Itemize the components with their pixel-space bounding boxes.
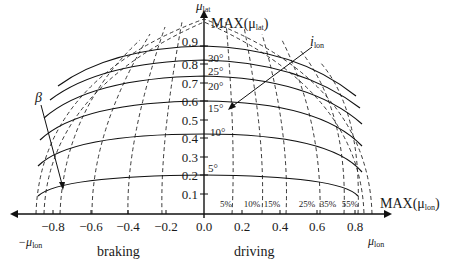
x-tick: −0.8 xyxy=(41,219,65,234)
y-tick: 0.2 xyxy=(182,168,198,183)
angle-label: 10° xyxy=(210,126,225,138)
x-tick: 0.0 xyxy=(196,219,212,234)
y-max-label: MAX(μlat) xyxy=(211,16,269,32)
slip-label: 55% xyxy=(342,199,359,209)
y-tick: 0.8 xyxy=(182,57,198,72)
slip-label: 15% xyxy=(264,199,281,209)
x-axis-label: μlon xyxy=(367,234,384,249)
angle-label: 30° xyxy=(208,52,223,64)
neg-x-axis-label: −μlon xyxy=(18,235,42,250)
y-tick: 0.1 xyxy=(182,187,198,202)
x-tick: −0.4 xyxy=(116,219,140,234)
x-tick: 0.8 xyxy=(347,219,363,234)
driving-label: driving xyxy=(234,244,274,259)
slip-label: 5% xyxy=(220,199,233,209)
friction-ellipse-diagram: 0.1 0.2 0.3 0.4 0.5 0.6 0.7 0.8 0.9 −0.8… xyxy=(0,0,451,271)
i-lon-pointer xyxy=(230,47,312,108)
x-arrow-right xyxy=(384,210,392,218)
angle-label: 25° xyxy=(208,65,223,77)
y-tick: 0.7 xyxy=(182,76,199,91)
x-tick: 0.6 xyxy=(309,219,326,234)
x-tick: −0.2 xyxy=(154,219,178,234)
x-arrow-left xyxy=(10,210,18,218)
angle-label: 5° xyxy=(208,162,218,174)
y-tick: 0.3 xyxy=(182,150,198,165)
y-tick: 0.6 xyxy=(182,94,199,109)
braking-label: braking xyxy=(97,244,140,259)
x-tick: −0.6 xyxy=(79,219,103,234)
y-tick: 0.9 xyxy=(182,34,198,49)
x-tick: 0.4 xyxy=(272,219,289,234)
x-max-label: MAX(μlon) xyxy=(380,196,440,212)
angle-label: 15° xyxy=(208,102,223,114)
y-tick: 0.5 xyxy=(182,113,198,128)
slip-label: 25% xyxy=(299,199,316,209)
angle-label: 20° xyxy=(208,80,223,92)
beta-pointer xyxy=(41,105,63,188)
slip-label: 10% xyxy=(244,199,261,209)
i-lon-label: ilon xyxy=(310,34,324,50)
y-tick: 0.4 xyxy=(182,131,199,146)
x-tick: 0.2 xyxy=(234,219,250,234)
slip-label: 35% xyxy=(320,199,337,209)
y-axis-label: μlat xyxy=(195,0,211,14)
beta-label: β xyxy=(34,90,42,105)
